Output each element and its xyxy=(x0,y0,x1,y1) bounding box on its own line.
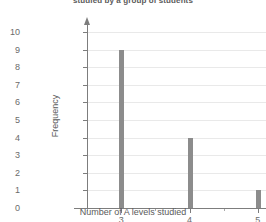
y-axis-title: Frequency xyxy=(50,66,60,166)
gridline xyxy=(88,67,266,68)
bar xyxy=(119,50,124,208)
gridline xyxy=(88,50,266,51)
bar-chart: studied by a group of students 012345678… xyxy=(0,0,266,222)
y-axis-tick-label: 10 xyxy=(0,28,20,37)
y-axis-line xyxy=(87,24,88,208)
gridline xyxy=(88,102,266,103)
x-axis-title: Number of A levels studied xyxy=(0,207,266,218)
y-axis-tick-label: 5 xyxy=(0,116,20,125)
bar xyxy=(256,190,261,208)
y-axis-tick-label: 3 xyxy=(0,151,20,160)
gridline xyxy=(88,155,266,156)
y-axis-tick-label: 2 xyxy=(0,169,20,178)
plot-area: 012345678910 345 Frequency xyxy=(44,16,252,192)
gridline xyxy=(88,190,266,191)
y-axis-tick-label: 9 xyxy=(0,46,20,55)
y-axis-tick-label: 7 xyxy=(0,81,20,90)
gridline xyxy=(88,85,266,86)
arrow-up-icon xyxy=(84,17,90,25)
y-axis-tick-label: 8 xyxy=(0,63,20,72)
gridline xyxy=(88,173,266,174)
y-axis-tick-label: 6 xyxy=(0,98,20,107)
gridline xyxy=(88,120,266,121)
gridline xyxy=(88,138,266,139)
gridline xyxy=(88,32,266,33)
bar xyxy=(188,138,193,208)
chart-title: studied by a group of students xyxy=(0,0,266,5)
y-axis-tick-label: 1 xyxy=(0,186,20,195)
y-axis-tick-label: 4 xyxy=(0,134,20,143)
